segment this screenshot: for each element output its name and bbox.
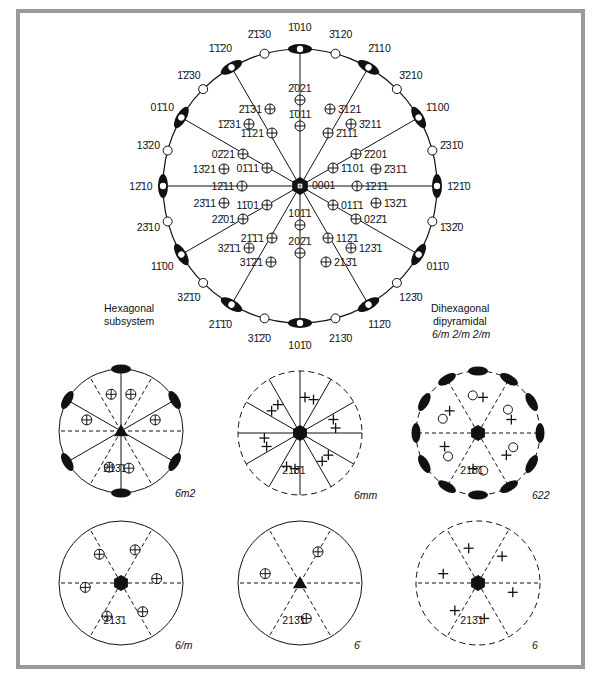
rim-form-label: 21̄1̄0 — [209, 318, 233, 330]
twofold-axis-symbol — [356, 294, 382, 315]
sixfold-rotoinversion-icon — [293, 576, 307, 588]
rim-form-label: 11̄00 — [151, 260, 174, 272]
subfig-6bar-m2: 213̄16̄m2 — [58, 365, 195, 500]
pole-label: 22̄01 — [212, 213, 236, 225]
point-group-symbol: 622 — [532, 489, 550, 501]
pole-label: 11̄01 — [236, 199, 259, 211]
pole-label: 213̄1 — [460, 614, 484, 626]
rim-pole — [260, 314, 269, 323]
subfig-6: 213̄16 — [416, 521, 540, 651]
rim-pole — [199, 278, 208, 287]
plus-pole-symbol — [440, 441, 450, 451]
rim-form-label: 2̄31̄0 — [440, 139, 464, 151]
twofold-axis-symbol — [158, 174, 168, 198]
pole-symbol — [267, 233, 277, 243]
rim-form-label: 2̄1̄30 — [248, 28, 272, 40]
pole-symbol — [313, 547, 323, 557]
pole-label: 213̄1 — [282, 464, 306, 476]
pole-symbol — [267, 128, 277, 138]
rim-form-label: 32̄1̄0 — [177, 291, 201, 303]
pole-symbol — [94, 549, 104, 559]
twofold-axis-symbol — [536, 423, 545, 443]
pole-label: 23̄11 — [193, 197, 216, 209]
twofold-axis-symbol — [58, 389, 76, 411]
rim-form-label: 213̄0 — [329, 332, 353, 344]
twofold-axis-symbol — [288, 44, 312, 54]
pole-label: 1̄2̄31 — [218, 118, 242, 130]
title-left-line1: Hexagonal — [104, 302, 154, 314]
pole-label: 112̄1 — [336, 232, 359, 244]
rim-form-label: 1̄100 — [426, 101, 450, 113]
pole-symbol — [244, 119, 254, 129]
twofold-axis-symbol — [523, 391, 541, 413]
plus-pole-symbol — [445, 406, 455, 416]
pole-label: 011̄1 — [341, 199, 364, 211]
rim-pole — [392, 278, 401, 287]
pole-label: 3̄121 — [338, 103, 362, 115]
pole-symbol — [321, 257, 331, 267]
pole-label: 01̄11 — [236, 162, 259, 174]
pole-symbol — [106, 389, 116, 399]
pole-symbol — [238, 214, 248, 224]
pole-label: 12̄11 — [211, 180, 234, 192]
rim-form-label: 23̄10 — [137, 221, 161, 233]
sixfold-axis-icon — [293, 425, 307, 441]
plus-pole-symbol — [478, 392, 488, 402]
twofold-axis-symbol — [498, 478, 520, 496]
pole-label: 02̄21 — [212, 148, 236, 160]
pole-symbol — [150, 415, 160, 425]
plus-pole-symbol — [331, 423, 341, 433]
pole-symbol — [237, 181, 247, 191]
pole-symbol — [328, 163, 338, 173]
rim-pole — [260, 49, 269, 58]
pole-symbol — [352, 181, 362, 191]
pole-label: 21̄1̄1 — [241, 232, 265, 244]
rim-form-label: 3̄120 — [329, 28, 353, 40]
rim-pole — [392, 85, 401, 94]
twofold-axis-symbol — [468, 367, 488, 376]
pole-label: 2̄31̄1 — [384, 163, 408, 175]
pole-label: 123̄1 — [359, 242, 383, 254]
plus-pole-symbol — [438, 569, 448, 579]
pole-symbol — [323, 233, 333, 243]
pole-symbol — [82, 415, 92, 425]
rim-form-label: 01̄10 — [151, 101, 175, 113]
pole-label: 213̄1 — [282, 614, 306, 626]
rim-form-label: 31̄2̄0 — [248, 332, 272, 344]
rim-form-label: 1̄21̄0 — [447, 180, 471, 192]
pole-symbol — [295, 220, 305, 230]
plus-pole-symbol — [450, 606, 460, 616]
open-pole-symbol — [438, 414, 447, 423]
twofold-axis-symbol — [412, 423, 421, 443]
rim-form-label: 123̄0 — [399, 291, 423, 303]
rim-pole — [163, 217, 172, 226]
twofold-axis-symbol — [219, 294, 245, 315]
rim-form-label: 101̄0 — [288, 339, 312, 351]
plus-pole-symbol — [497, 551, 507, 561]
rim-form-label: 1̄1̄20 — [209, 42, 233, 54]
subfig-6mm: 213̄16mm — [238, 371, 378, 501]
pole-label: 022̄1 — [364, 213, 388, 225]
pole-symbol — [238, 149, 248, 159]
pole-label: 213̄1 — [103, 614, 127, 626]
sixfold-axis-icon — [471, 425, 485, 441]
pole-label: 1̄21̄1 — [365, 180, 389, 192]
plus-pole-symbol — [501, 450, 511, 460]
pole-label: 1̄101 — [341, 162, 365, 174]
pole-label: 1̄011 — [289, 108, 312, 120]
open-pole-symbol — [509, 443, 518, 452]
pole-label: 31̄2̄1 — [240, 256, 264, 268]
pole-label: 2̄021 — [288, 82, 312, 94]
pole-symbol — [219, 198, 229, 208]
twofold-axis-symbol — [415, 453, 433, 475]
rim-form-label: 1̄2̄30 — [177, 69, 201, 81]
plus-pole-symbol — [300, 392, 310, 402]
rim-form-label: 12̄10 — [129, 180, 153, 192]
pole-symbol — [262, 163, 272, 173]
rim-pole — [199, 85, 208, 94]
title-right-line1: Dihexagonal — [431, 302, 489, 314]
twofold-axis-symbol — [166, 389, 184, 411]
plus-pole-symbol — [508, 587, 518, 597]
pole-symbol — [371, 198, 381, 208]
rim-pole — [331, 49, 340, 58]
